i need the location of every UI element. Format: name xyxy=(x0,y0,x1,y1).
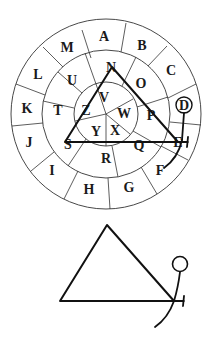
letter-L: L xyxy=(33,67,42,82)
letter-F: F xyxy=(156,163,165,178)
letter-K: K xyxy=(22,101,33,116)
letter-Q: Q xyxy=(134,138,145,153)
letter-B: B xyxy=(137,38,146,53)
glyph-arc xyxy=(155,301,174,327)
letter-R: R xyxy=(101,151,112,166)
wheel-figure-stem xyxy=(182,113,184,140)
letter-C: C xyxy=(166,63,176,78)
letter-M: M xyxy=(60,40,73,55)
middle-letters: N O P Q R S T U xyxy=(53,60,155,166)
glyph-stem xyxy=(174,272,180,301)
glyph-head-circle xyxy=(173,257,188,272)
letter-X: X xyxy=(110,123,120,138)
letter-T: T xyxy=(53,103,63,118)
letter-I: I xyxy=(49,163,54,178)
letter-V: V xyxy=(99,90,109,105)
glyph-figure xyxy=(60,225,188,327)
letter-W: W xyxy=(117,106,131,121)
letter-U: U xyxy=(67,73,77,88)
letter-H: H xyxy=(84,182,95,197)
letter-Y: Y xyxy=(91,124,101,139)
diagram-canvas: A B C D E F G H I J K L M N O P Q R S T … xyxy=(0,0,213,353)
letter-J: J xyxy=(26,135,33,150)
letter-A: A xyxy=(99,29,110,44)
glyph-triangle xyxy=(60,225,174,301)
letter-D: D xyxy=(179,98,189,113)
letter-O: O xyxy=(136,76,147,91)
letter-wheel: A B C D E F G H I J K L M N O P Q R S T … xyxy=(11,19,201,209)
letter-G: G xyxy=(124,180,135,195)
